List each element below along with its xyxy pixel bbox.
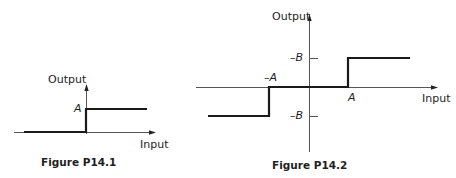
fig1-caption: Figure P14.1 [41,157,116,168]
fig2-neg-a-label: –A [264,72,277,83]
fig1-step-trace [24,109,147,132]
fig2-pos-a-label: A [348,92,356,103]
fig2-y-axis-label: Output [272,11,310,22]
fig2-lower-level-label: –B [290,110,303,121]
fig1-level-a-label: A [74,103,82,114]
figure-p14-1-plot [14,84,156,135]
fig2-upper-level-label: –B [290,52,303,63]
fig1-x-axis-label: Input [140,139,168,150]
fig2-x-axis-label: Input [422,93,450,104]
diagram-canvas [0,0,456,178]
fig1-y-axis-label: Output [48,74,86,85]
fig2-x-axis-arrow-icon [431,85,438,89]
fig2-caption: Figure P14.2 [272,160,347,171]
fig1-x-axis-arrow-icon [149,130,156,134]
figure-p14-2-plot [196,14,438,152]
